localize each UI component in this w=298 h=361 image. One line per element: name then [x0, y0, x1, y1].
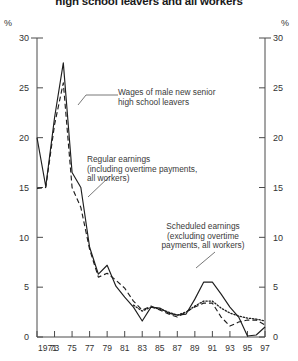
y-axis-tick-label: 5: [24, 282, 29, 292]
series-line-1: [37, 83, 265, 326]
y-axis-tick-label: 0: [273, 332, 278, 342]
x-axis-tick-label: 73: [50, 343, 60, 353]
y-axis-tick-label: 20: [273, 133, 283, 143]
y-axis-tick-label: 10: [19, 233, 29, 243]
x-axis-tick-label: 93: [225, 343, 235, 353]
axes: [31, 38, 271, 337]
x-axis-tick-label: 89: [190, 343, 200, 353]
x-axis-tick-label: 75: [67, 343, 77, 353]
x-axis-tick-label: 77: [85, 343, 95, 353]
y-axis-tick-label: 10: [273, 233, 283, 243]
annotation-scheduled-earnings: Scheduled earnings (excluding overtime p…: [148, 222, 258, 251]
y-axis-tick-label: 0: [24, 332, 29, 342]
annotation-high-school-leavers: Wages of male new senior high school lea…: [118, 88, 215, 107]
annotation-line-3: payments, all workers): [148, 241, 258, 251]
x-axis-tick-label: 83: [137, 343, 147, 353]
y-axis-tick-label: 25: [273, 83, 283, 93]
y-axis-tick-label: 15: [19, 183, 29, 193]
x-axis-tick-label: 79: [102, 343, 112, 353]
annotation-regular-earnings: Regular earnings (including overtime pay…: [87, 155, 197, 184]
x-axis-tick-label: 97: [260, 343, 270, 353]
y-axis-ticks: 005510101515202025253030: [19, 33, 283, 342]
y-axis-tick-label: 25: [19, 83, 29, 93]
x-axis-tick-label: 95: [243, 343, 253, 353]
series-line-2: [133, 301, 265, 321]
x-axis-ticks: 197173757779818385878991939597: [37, 331, 270, 353]
x-axis-tick-label: 81: [120, 343, 130, 353]
y-axis-tick-label: 30: [273, 33, 283, 43]
y-axis-tick-label: 20: [19, 133, 29, 143]
y-axis-tick-label: 30: [19, 33, 29, 43]
y-axis-tick-label: 15: [273, 183, 283, 193]
wage-growth-line-chart: high school leavers and all workers % % …: [0, 0, 298, 361]
x-axis-tick-label: 91: [208, 343, 218, 353]
annotation-line-3: all workers): [87, 174, 197, 184]
y-axis-tick-label: 5: [273, 282, 278, 292]
annotation-line-2: high school leavers: [118, 98, 215, 108]
x-axis-tick-label: 87: [173, 343, 183, 353]
x-axis-tick-label: 85: [155, 343, 165, 353]
